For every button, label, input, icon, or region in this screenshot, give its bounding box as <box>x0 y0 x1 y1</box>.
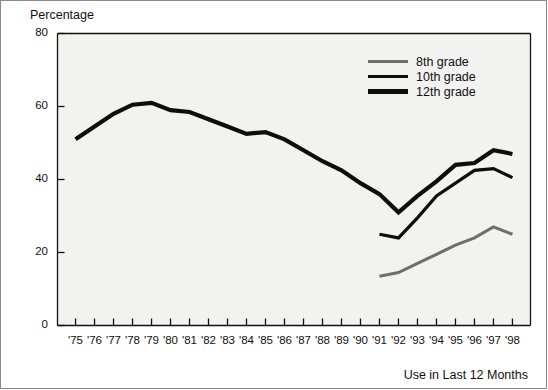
legend-label: 8th grade <box>416 55 469 69</box>
x-tick-label: '87 <box>296 334 311 346</box>
x-tick-label: '77 <box>106 334 121 346</box>
x-tick-label: '98 <box>505 334 520 346</box>
x-tick-label: '89 <box>334 334 349 346</box>
legend-swatch-icon <box>368 89 408 94</box>
x-tick-label: '92 <box>391 334 406 346</box>
x-tick-label: '96 <box>467 334 482 346</box>
y-tick-label: 20 <box>22 245 48 257</box>
x-tick-label: '82 <box>201 334 216 346</box>
chart-figure: Percentage Use in Last 12 Months 0204060… <box>0 0 548 390</box>
legend-label: 10th grade <box>416 70 476 84</box>
y-tick-label: 0 <box>22 318 48 330</box>
legend-item: 12th grade <box>368 84 476 99</box>
x-tick-label: '83 <box>220 334 235 346</box>
x-tick-label: '78 <box>125 334 140 346</box>
x-tick-label: '88 <box>315 334 330 346</box>
x-tick-label: '94 <box>429 334 444 346</box>
legend-swatch-icon <box>368 75 408 78</box>
y-tick-label: 40 <box>22 172 48 184</box>
x-tick-label: '76 <box>87 334 102 346</box>
x-tick-label: '86 <box>277 334 292 346</box>
legend-item: 10th grade <box>368 69 476 84</box>
legend-swatch-icon <box>368 60 408 63</box>
y-tick-label: 80 <box>22 26 48 38</box>
x-tick-label: '95 <box>448 334 463 346</box>
x-tick-label: '84 <box>239 334 254 346</box>
x-tick-label: '75 <box>68 334 83 346</box>
x-tick-label: '90 <box>353 334 368 346</box>
legend-label: 12th grade <box>416 85 476 99</box>
x-tick-label: '81 <box>182 334 197 346</box>
chart-legend: 8th grade10th grade12th grade <box>368 54 476 99</box>
x-tick-label: '85 <box>258 334 273 346</box>
y-tick-label: 60 <box>22 99 48 111</box>
x-tick-label: '79 <box>144 334 159 346</box>
x-tick-label: '97 <box>486 334 501 346</box>
legend-item: 8th grade <box>368 54 476 69</box>
x-tick-label: '91 <box>372 334 387 346</box>
x-tick-label: '93 <box>410 334 425 346</box>
x-tick-label: '80 <box>163 334 178 346</box>
